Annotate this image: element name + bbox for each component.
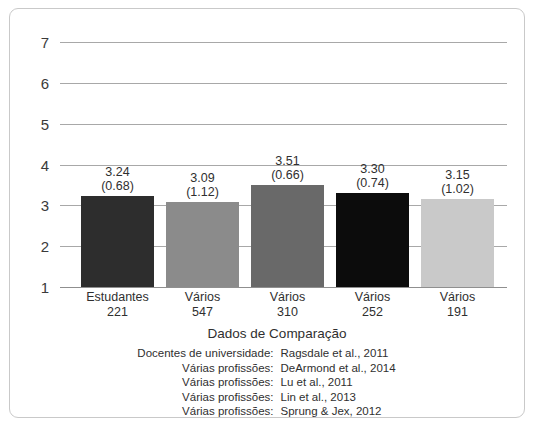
x-axis-label: Vários547 — [166, 290, 239, 320]
x-axis-labels: Estudantes221Vários547Vários310Vários252… — [60, 290, 507, 328]
bar-value-label: 3.24(0.68) — [101, 165, 134, 193]
bar[interactable] — [251, 185, 324, 287]
x-axis-sample-size: 191 — [421, 305, 494, 320]
legend-population: Várias profissões: — [122, 390, 281, 405]
bar-group: 3.15(1.02) — [421, 42, 494, 287]
x-axis-sample-size: 252 — [336, 305, 409, 320]
bar[interactable] — [336, 193, 409, 287]
legend-row: Várias profissões:Lu et al., 2011 — [19, 375, 534, 390]
bar-mean-value: 3.09 — [190, 171, 214, 185]
bar-group: 3.51(0.66) — [251, 42, 324, 287]
legend-citation: Ragsdale et al., 2011 — [281, 346, 433, 361]
figure-container: 7654321 3.24(0.68)3.09(1.12)3.51(0.66)3.… — [0, 0, 534, 434]
plot-area: 7654321 3.24(0.68)3.09(1.12)3.51(0.66)3.… — [60, 42, 507, 287]
bar-sd-value: (0.74) — [356, 176, 389, 190]
y-axis-tick-4: 4 — [41, 157, 49, 172]
x-axis-category: Vários — [166, 290, 239, 305]
bar-value-label: 3.30(0.74) — [356, 162, 389, 190]
bar[interactable] — [166, 202, 239, 287]
bar-sd-value: (1.02) — [441, 182, 474, 196]
x-axis-sample-size: 221 — [81, 305, 154, 320]
legend-population: Várias profissões: — [122, 375, 281, 390]
bar-value-label: 3.09(1.12) — [186, 171, 219, 199]
bar-sd-value: (0.68) — [101, 179, 134, 193]
x-axis-label: Vários310 — [251, 290, 324, 320]
bar-value-label: 3.51(0.66) — [271, 154, 304, 182]
caption-block: Dados de Comparação Docentes de universi… — [19, 325, 534, 419]
bar-series: 3.24(0.68)3.09(1.12)3.51(0.66)3.30(0.74)… — [60, 42, 507, 287]
legend-citation: Lu et al., 2011 — [281, 375, 433, 390]
x-axis-label: Estudantes221 — [81, 290, 154, 320]
legend-row: Docentes de universidade:Ragsdale et al.… — [19, 346, 534, 361]
bar[interactable] — [81, 196, 154, 287]
x-axis-category: Estudantes — [81, 290, 154, 305]
legend-population: Docentes de universidade: — [122, 346, 281, 361]
y-axis-tick-1: 1 — [41, 280, 49, 295]
x-axis-sample-size: 310 — [251, 305, 324, 320]
x-axis-label: Vários191 — [421, 290, 494, 320]
x-axis-category: Vários — [251, 290, 324, 305]
bar-sd-value: (0.66) — [271, 168, 304, 182]
legend-row: Várias profissões:Sprung & Jex, 2012 — [19, 404, 534, 419]
legend-row: Várias profissões:DeArmond et al., 2014 — [19, 361, 534, 376]
legend-citation: Sprung & Jex, 2012 — [281, 404, 433, 419]
y-axis-tick-5: 5 — [41, 116, 49, 131]
x-axis-sample-size: 547 — [166, 305, 239, 320]
legend: Docentes de universidade:Ragsdale et al.… — [19, 346, 534, 419]
bar-mean-value: 3.15 — [445, 168, 469, 182]
x-axis-category: Vários — [336, 290, 409, 305]
y-axis-tick-7: 7 — [41, 35, 49, 50]
chart-title: Dados de Comparação — [19, 325, 534, 343]
bar-mean-value: 3.24 — [105, 165, 129, 179]
chart-frame: 7654321 3.24(0.68)3.09(1.12)3.51(0.66)3.… — [9, 8, 525, 418]
x-axis-label: Vários252 — [336, 290, 409, 320]
figure-caption — [9, 425, 525, 434]
legend-population: Várias profissões: — [122, 404, 281, 419]
y-axis-tick-3: 3 — [41, 198, 49, 213]
bar[interactable] — [421, 199, 494, 287]
y-axis-tick-6: 6 — [41, 75, 49, 90]
bar-mean-value: 3.51 — [275, 154, 299, 168]
bar-value-label: 3.15(1.02) — [441, 168, 474, 196]
x-axis-category: Vários — [421, 290, 494, 305]
y-axis-tick-2: 2 — [41, 239, 49, 254]
bar-group: 3.24(0.68) — [81, 42, 154, 287]
legend-citation: Lin et al., 2013 — [281, 390, 433, 405]
legend-citation: DeArmond et al., 2014 — [281, 361, 433, 376]
legend-population: Várias profissões: — [122, 361, 281, 376]
gridline-1: 1 — [60, 287, 507, 288]
bar-sd-value: (1.12) — [186, 185, 219, 199]
bar-mean-value: 3.30 — [360, 162, 384, 176]
legend-row: Várias profissões:Lin et al., 2013 — [19, 390, 534, 405]
bar-group: 3.09(1.12) — [166, 42, 239, 287]
bar-group: 3.30(0.74) — [336, 42, 409, 287]
